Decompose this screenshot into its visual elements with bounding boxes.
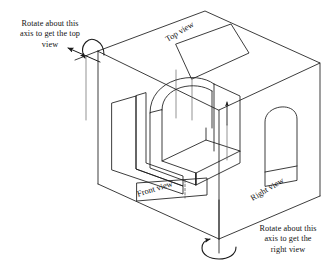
right-view-arch-outline — [265, 107, 297, 186]
right-view-base-line — [265, 166, 297, 172]
object-arch-top-curve — [150, 77, 214, 113]
front-view-u-outline — [112, 96, 183, 194]
right-view-projection — [265, 107, 297, 186]
object-right-face — [196, 151, 240, 185]
object-cavity-back — [162, 140, 240, 161]
top-view-projection — [176, 24, 249, 120]
glass-box-shell — [98, 11, 320, 239]
figure-canvas: Rotate about this axis to get the top vi… — [0, 0, 335, 265]
object-left-face — [150, 110, 196, 185]
object-arch-inner-curve — [162, 86, 212, 110]
bottom-rotation-caption: Rotate about this axis to get the right … — [243, 224, 333, 255]
top-rotation-caption: Rotate about this axis to get the top vi… — [2, 19, 98, 50]
bottom-rotation-axis — [202, 200, 236, 259]
box-top-face — [98, 11, 320, 110]
